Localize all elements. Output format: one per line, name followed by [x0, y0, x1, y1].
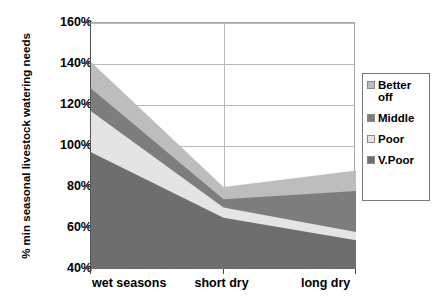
plot-area [90, 22, 355, 268]
area-series-layer [91, 23, 356, 269]
x-axis-tick-mark [355, 269, 356, 274]
legend-item-label: Middle [378, 112, 414, 124]
x-axis-tick-label: short dry [195, 276, 249, 290]
x-axis-tick-label: long dry [301, 276, 350, 290]
legend-swatch-icon [367, 81, 375, 89]
legend-item-label: Poor [378, 133, 404, 145]
legend: Better offMiddlePoorV.Poor [362, 73, 430, 201]
legend-swatch-icon [367, 135, 375, 143]
legend-item[interactable]: V.Poor [367, 154, 426, 166]
stacked-area-chart: % min seasonal livestock watering needs … [0, 0, 436, 306]
legend-item-label: V.Poor [378, 154, 414, 166]
legend-item-label: Better off [378, 79, 426, 103]
legend-swatch-icon [367, 156, 375, 164]
legend-swatch-icon [367, 114, 375, 122]
y-axis-title: % min seasonal livestock watering needs [20, 16, 32, 276]
x-axis-tick-mark [90, 269, 91, 274]
x-axis-tick-label: wet seasons [92, 276, 166, 290]
legend-item[interactable]: Better off [367, 79, 426, 103]
legend-item[interactable]: Poor [367, 133, 426, 145]
x-axis-tick-mark [223, 269, 224, 274]
legend-item[interactable]: Middle [367, 112, 426, 124]
